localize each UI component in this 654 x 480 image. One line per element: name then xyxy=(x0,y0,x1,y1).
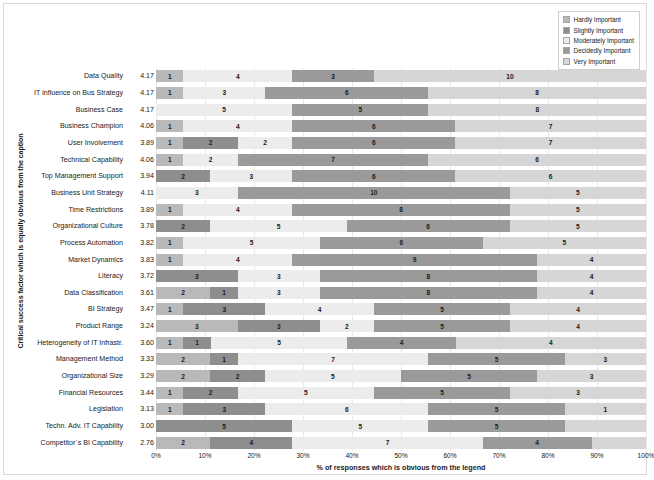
bar-segment[interactable]: 5 xyxy=(510,187,646,199)
bar-segment[interactable]: 5 xyxy=(210,220,346,232)
bar-segment[interactable]: 5 xyxy=(510,220,646,232)
bar-segment[interactable]: 2 xyxy=(156,353,210,365)
bar-segment[interactable]: 6 xyxy=(455,170,646,182)
bar-segment[interactable]: 5 xyxy=(374,303,510,315)
bar-segment[interactable]: 7 xyxy=(238,353,429,365)
table-row[interactable]: 33254 xyxy=(156,320,646,332)
table-row[interactable]: 12267 xyxy=(156,137,646,149)
bar-segment[interactable]: 4 xyxy=(510,303,646,315)
table-row[interactable]: 555 xyxy=(156,420,646,432)
bar-segment[interactable]: 3 xyxy=(510,387,646,399)
bar-segment[interactable]: 1 xyxy=(210,353,237,365)
bar-segment[interactable]: 3 xyxy=(565,353,646,365)
bar-segment[interactable]: 2 xyxy=(156,170,210,182)
bar-segment[interactable]: 3 xyxy=(156,320,238,332)
bar-segment[interactable]: 5 xyxy=(292,104,428,116)
bar-segment[interactable]: 4 xyxy=(347,337,456,349)
legend-item[interactable]: Slightly Important xyxy=(563,25,634,34)
table-row[interactable]: 12553 xyxy=(156,387,646,399)
bar-segment[interactable]: 3 xyxy=(156,270,238,282)
bar-segment[interactable]: 4 xyxy=(537,270,646,282)
bar-segment[interactable]: 4 xyxy=(183,70,292,82)
table-row[interactable]: 13454 xyxy=(156,303,646,315)
bar-segment[interactable]: 1 xyxy=(156,237,183,249)
bar-segment[interactable]: 6 xyxy=(292,170,455,182)
table-row[interactable]: 1565 xyxy=(156,237,646,249)
bar-segment[interactable]: 6 xyxy=(265,403,428,415)
bar-segment[interactable]: 1 xyxy=(565,403,646,415)
bar-segment[interactable]: 4 xyxy=(210,437,292,449)
bar-segment[interactable]: 7 xyxy=(238,154,429,166)
bar-segment[interactable]: 2 xyxy=(156,287,210,299)
bar-segment[interactable]: 2 xyxy=(156,437,210,449)
bar-segment[interactable]: 3 xyxy=(210,170,292,182)
table-row[interactable]: 22553 xyxy=(156,370,646,382)
bar-segment[interactable]: 3 xyxy=(537,370,646,382)
bar-segment[interactable]: 2 xyxy=(210,370,264,382)
bar-segment[interactable]: 5 xyxy=(156,420,292,432)
table-row[interactable]: 2565 xyxy=(156,220,646,232)
table-row[interactable]: 3384 xyxy=(156,270,646,282)
table-row[interactable]: 21384 xyxy=(156,287,646,299)
bar-segment[interactable]: 5 xyxy=(401,370,537,382)
bar-segment[interactable]: 5 xyxy=(428,403,564,415)
legend-item[interactable]: Very Important xyxy=(563,57,634,66)
bar-segment[interactable]: 4 xyxy=(183,254,292,266)
bar-segment[interactable]: 2 xyxy=(156,220,210,232)
bar-segment[interactable]: 2 xyxy=(183,154,237,166)
bar-segment[interactable]: 5 xyxy=(183,237,319,249)
bar-segment[interactable]: 5 xyxy=(510,204,646,216)
bar-segment[interactable]: 3 xyxy=(183,303,265,315)
bar-segment[interactable]: 2 xyxy=(238,137,292,149)
bar-segment[interactable]: 3 xyxy=(292,70,374,82)
bar-segment[interactable] xyxy=(565,420,646,432)
bar-segment[interactable]: 5 xyxy=(483,237,646,249)
bar-segment[interactable]: 4 xyxy=(510,320,646,332)
table-row[interactable]: 558 xyxy=(156,104,646,116)
bar-segment[interactable]: 1 xyxy=(156,254,183,266)
bar-segment[interactable]: 6 xyxy=(428,154,646,166)
bar-segment[interactable]: 1 xyxy=(156,87,183,99)
table-row[interactable]: 13651 xyxy=(156,403,646,415)
bar-segment[interactable]: 1 xyxy=(156,387,183,399)
bar-segment[interactable]: 10 xyxy=(238,187,510,199)
bar-segment[interactable]: 4 xyxy=(537,254,646,266)
bar-segment[interactable]: 7 xyxy=(292,437,483,449)
bar-segment[interactable]: 7 xyxy=(455,137,646,149)
bar-segment[interactable]: 6 xyxy=(320,237,483,249)
bar-segment[interactable]: 5 xyxy=(428,353,564,365)
bar-segment[interactable]: 5 xyxy=(265,370,401,382)
table-row[interactable]: 1467 xyxy=(156,120,646,132)
bar-segment[interactable]: 1 xyxy=(156,154,183,166)
bar-segment[interactable]: 1 xyxy=(156,70,183,82)
bar-segment[interactable]: 2 xyxy=(183,137,237,149)
bar-segment[interactable]: 6 xyxy=(292,120,455,132)
bar-segment[interactable] xyxy=(592,437,646,449)
table-row[interactable]: 21753 xyxy=(156,353,646,365)
bar-segment[interactable]: 8 xyxy=(320,270,538,282)
table-row[interactable]: 11544 xyxy=(156,337,646,349)
bar-segment[interactable]: 4 xyxy=(183,120,292,132)
table-row[interactable]: 2474 xyxy=(156,437,646,449)
bar-segment[interactable]: 2 xyxy=(183,387,237,399)
bar-segment[interactable]: 9 xyxy=(292,254,537,266)
bar-segment[interactable]: 8 xyxy=(320,287,538,299)
bar-segment[interactable]: 4 xyxy=(183,204,292,216)
table-row[interactable]: 1485 xyxy=(156,204,646,216)
bar-segment[interactable]: 8 xyxy=(292,204,510,216)
bar-segment[interactable]: 10 xyxy=(374,70,646,82)
bar-segment[interactable]: 4 xyxy=(265,303,374,315)
bar-segment[interactable]: 1 xyxy=(156,204,183,216)
bar-segment[interactable]: 5 xyxy=(211,337,347,349)
table-row[interactable]: 2366 xyxy=(156,170,646,182)
legend-item[interactable]: Decidedly Important xyxy=(563,46,634,55)
bar-segment[interactable]: 7 xyxy=(455,120,646,132)
table-row[interactable]: 3105 xyxy=(156,187,646,199)
bar-segment[interactable]: 3 xyxy=(238,270,320,282)
bar-segment[interactable]: 4 xyxy=(537,287,646,299)
bar-segment[interactable]: 2 xyxy=(320,320,374,332)
bar-segment[interactable]: 1 xyxy=(156,120,183,132)
table-row[interactable]: 1494 xyxy=(156,254,646,266)
table-row[interactable]: 1276 xyxy=(156,154,646,166)
bar-segment[interactable]: 3 xyxy=(238,287,320,299)
